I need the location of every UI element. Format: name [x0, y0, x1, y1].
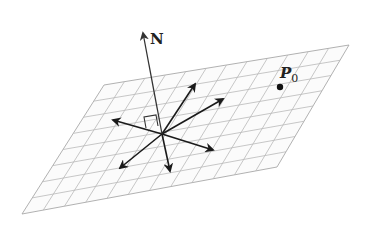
point-p0 — [277, 84, 283, 90]
point-label-subscript: 0 — [291, 72, 298, 85]
plane-surface — [22, 45, 349, 214]
normal-label: N — [150, 30, 164, 48]
point-label-main: P — [279, 64, 292, 82]
plane-grid — [22, 45, 349, 214]
plane-normal-diagram: N P0 — [0, 0, 373, 238]
point-dot-icon — [277, 84, 283, 90]
